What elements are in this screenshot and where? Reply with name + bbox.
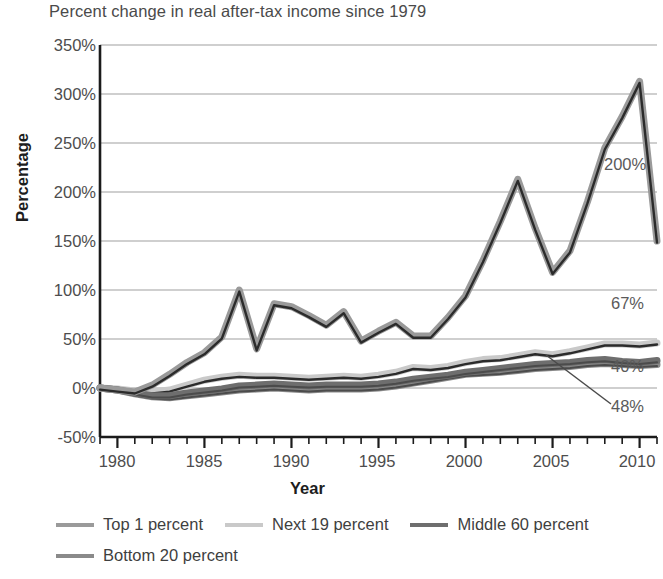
annotation-middle60: 48% <box>611 397 644 416</box>
x-tick-label: 2005 <box>533 452 570 471</box>
data-series-lines <box>100 81 657 399</box>
annotation-next19: 67% <box>611 294 644 313</box>
legend-row-1: Top 1 percent Next 19 percent Middle 60 … <box>56 509 663 540</box>
legend-item-middle-60-percent[interactable]: Middle 60 percent <box>410 515 588 534</box>
legend-item-bottom-20-percent[interactable]: Bottom 20 percent <box>56 546 238 565</box>
x-axis-tick-labels: 1980 1985 1990 1995 2000 2005 2010 <box>100 452 663 476</box>
legend-row-2: Bottom 20 percent <box>56 540 663 571</box>
x-tick-label: 2010 <box>619 452 656 471</box>
x-tick-label: 1985 <box>186 452 223 471</box>
chart-container: Percent change in real after-tax income … <box>0 0 663 579</box>
legend-label: Middle 60 percent <box>457 515 588 534</box>
annotation-top1: 200% <box>604 155 646 174</box>
plot-svg <box>0 0 663 579</box>
x-axis-ticks <box>100 437 657 448</box>
x-tick-label: 1990 <box>273 452 310 471</box>
annotation-bottom20: 40% <box>611 357 644 376</box>
gridlines <box>100 45 657 388</box>
chart-legend: Top 1 percent Next 19 percent Middle 60 … <box>56 509 663 571</box>
x-axis-title: Year <box>290 479 325 498</box>
x-tick-label: 1995 <box>359 452 396 471</box>
legend-label: Bottom 20 percent <box>103 546 238 565</box>
legend-swatch-icon <box>225 523 263 527</box>
legend-label: Next 19 percent <box>272 515 388 534</box>
x-tick-label: 1980 <box>99 452 136 471</box>
x-tick-label: 2000 <box>446 452 483 471</box>
legend-item-next-19-percent[interactable]: Next 19 percent <box>225 515 388 534</box>
legend-swatch-icon <box>56 523 94 527</box>
legend-swatch-icon <box>56 554 94 558</box>
legend-swatch-icon <box>410 523 448 527</box>
legend-label: Top 1 percent <box>103 515 203 534</box>
legend-item-top-1-percent[interactable]: Top 1 percent <box>56 515 203 534</box>
